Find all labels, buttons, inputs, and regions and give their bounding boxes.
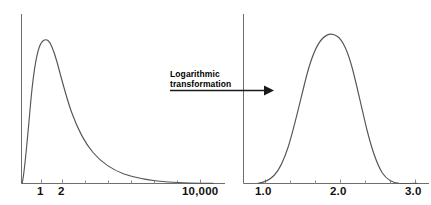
right-xtick-label-2-0: 2.0 <box>330 186 347 198</box>
right-xtick-label-3-0: 3.0 <box>405 186 422 198</box>
left-xtick-label-10000: 10,000 <box>182 186 218 198</box>
left-curve <box>22 40 213 184</box>
figure-root: 1 2 10,000 1.0 2.0 3.0 Logarithmic trans… <box>0 0 431 205</box>
left-panel <box>22 14 226 184</box>
transformation-label-line1: Logarithmic <box>170 69 220 79</box>
arrow-head-icon <box>264 86 274 96</box>
right-curve <box>258 34 417 183</box>
right-panel <box>244 14 430 184</box>
distribution-transformation-figure <box>0 0 431 205</box>
transformation-label-line2: transformation <box>170 79 231 89</box>
left-xtick-label-2: 2 <box>58 186 65 198</box>
right-xtick-label-1-0: 1.0 <box>255 186 272 198</box>
left-xtick-label-1: 1 <box>37 186 44 198</box>
